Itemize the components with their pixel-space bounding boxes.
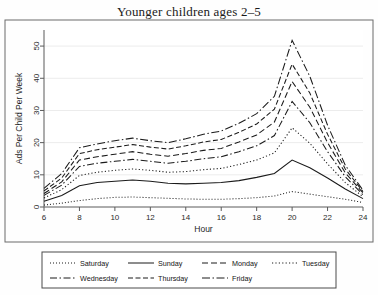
x-tick-label: 20 (288, 213, 297, 222)
legend-label-sunday[interactable]: Sunday (158, 259, 183, 268)
y-tick-label: 50 (32, 41, 41, 50)
x-axis-title: Hour (194, 224, 213, 234)
x-tick-label: 24 (359, 213, 368, 222)
legend-label-saturday[interactable]: Saturday (80, 259, 109, 268)
legend-label-friday[interactable]: Friday (232, 274, 252, 283)
x-tick-label: 6 (42, 213, 47, 222)
x-tick-label: 14 (181, 213, 190, 222)
x-tick-label: 12 (146, 213, 155, 222)
x-tick-label: 10 (110, 213, 119, 222)
plot-background (44, 30, 363, 207)
legend-label-thursday[interactable]: Thursday (158, 274, 188, 283)
x-tick-label: 22 (323, 213, 332, 222)
y-tick-label: 0 (32, 204, 41, 209)
y-axis-title: Ads Per Child Per Week (14, 72, 24, 164)
legend-label-monday[interactable]: Monday (232, 259, 258, 268)
y-tick-label: 40 (32, 73, 41, 82)
x-tick-label: 18 (252, 213, 261, 222)
x-tick-label: 16 (217, 213, 226, 222)
legend-label-wednesday[interactable]: Wednesday (80, 274, 118, 283)
legend-label-tuesday[interactable]: Tuesday (302, 259, 330, 268)
x-tick-label: 8 (77, 213, 82, 222)
chart-page: Younger children ages 2–5 01020304050681… (0, 0, 378, 295)
y-tick-label: 30 (32, 105, 41, 114)
line-chart: 01020304050681012141618202224HourAds Per… (0, 0, 378, 295)
y-tick-label: 20 (32, 138, 41, 147)
y-tick-label: 10 (32, 170, 41, 179)
